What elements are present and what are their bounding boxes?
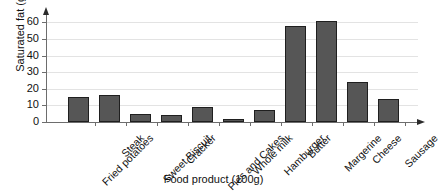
bar bbox=[347, 82, 368, 122]
x-axis-tick bbox=[281, 122, 282, 126]
plot-area: 0102030405060 bbox=[46, 14, 418, 122]
gridline bbox=[46, 39, 418, 40]
y-tick-mark bbox=[42, 22, 46, 23]
gridline bbox=[46, 72, 418, 73]
x-axis-tick bbox=[219, 122, 220, 126]
y-tick-mark bbox=[42, 122, 46, 123]
x-axis-arrow-icon bbox=[417, 119, 425, 125]
y-tick-mark bbox=[42, 105, 46, 106]
y-tick-label: 30 bbox=[27, 65, 39, 77]
bar bbox=[161, 115, 182, 122]
x-axis-tick bbox=[188, 122, 189, 126]
bar bbox=[130, 114, 151, 122]
y-tick-label: 0 bbox=[33, 115, 39, 127]
bar bbox=[378, 99, 399, 122]
y-tick-label: 20 bbox=[27, 82, 39, 94]
x-axis-tick bbox=[312, 122, 313, 126]
gridline bbox=[46, 56, 418, 57]
y-tick-label: 40 bbox=[27, 49, 39, 61]
y-tick-label: 60 bbox=[27, 15, 39, 27]
y-tick-label: 50 bbox=[27, 32, 39, 44]
bar bbox=[223, 119, 244, 122]
bar bbox=[99, 95, 120, 122]
gridline bbox=[46, 22, 418, 23]
x-axis-tick bbox=[126, 122, 127, 126]
x-axis-category-label: Sausage bbox=[402, 132, 440, 170]
x-axis-category-label: Butter bbox=[305, 132, 333, 160]
y-tick-label: 10 bbox=[27, 98, 39, 110]
x-axis-tick bbox=[343, 122, 344, 126]
y-axis-title: Saturated fat (g) bbox=[14, 0, 26, 92]
y-tick-mark bbox=[42, 56, 46, 57]
y-tick-mark bbox=[42, 72, 46, 73]
y-axis-line bbox=[46, 14, 47, 122]
y-axis-arrow-icon bbox=[43, 7, 49, 15]
bar bbox=[192, 107, 213, 122]
x-axis-title: Food product (100g) bbox=[0, 173, 427, 185]
bar bbox=[316, 21, 337, 122]
y-tick-mark bbox=[42, 39, 46, 40]
x-axis-tick bbox=[250, 122, 251, 126]
bar bbox=[285, 26, 306, 122]
bar bbox=[254, 110, 275, 122]
x-axis-line bbox=[46, 122, 418, 123]
x-axis-tick bbox=[374, 122, 375, 126]
y-tick-mark bbox=[42, 89, 46, 90]
x-axis-tick bbox=[95, 122, 96, 126]
x-axis-tick bbox=[157, 122, 158, 126]
bar bbox=[68, 97, 89, 122]
x-axis-tick bbox=[405, 122, 406, 126]
